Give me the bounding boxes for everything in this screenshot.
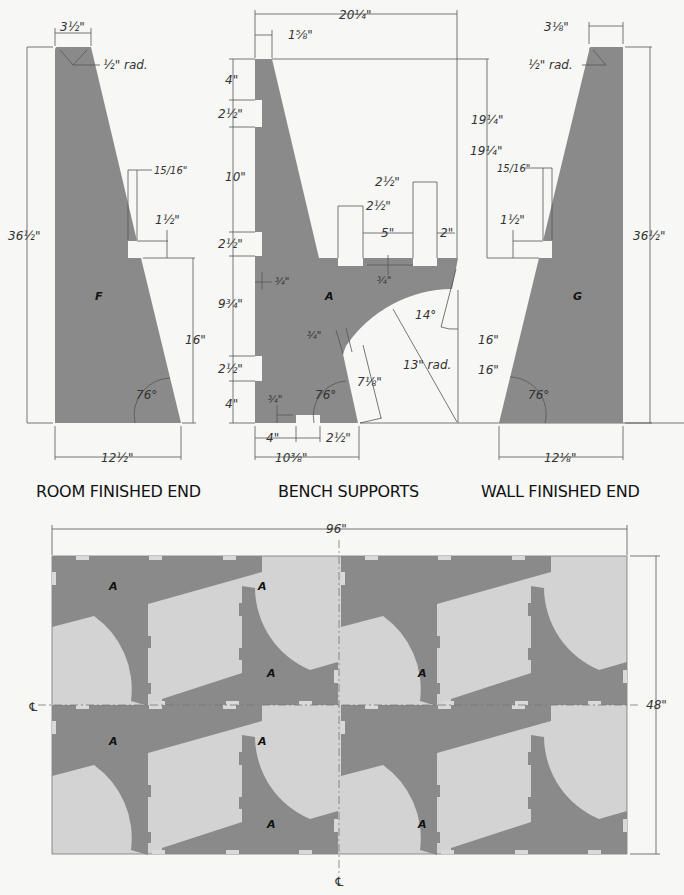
dim-g-notch-elevation: 16"	[478, 333, 499, 347]
layout-label-a: A	[108, 735, 118, 748]
layout-label-a: A	[257, 580, 267, 593]
dim-a-arc-radius: 13" rad.	[403, 358, 451, 372]
dim-a-left-9-3-4: 9¾"	[218, 297, 243, 311]
dim-g-notch-depth: 15/16"	[497, 163, 530, 174]
dim-sheet-height: 48"	[646, 698, 667, 712]
dim-g-height: 36½"	[633, 229, 665, 243]
layout-label-a: A	[417, 818, 427, 831]
dim-g-notch-height: 1½"	[500, 213, 525, 227]
dim-f-radius: ½" rad.	[103, 58, 148, 72]
part-g-shape	[499, 47, 623, 423]
dim-g-angle: 76°	[528, 388, 549, 402]
dim-a-span-2: 2"	[440, 226, 453, 240]
dim-a-left-slot-3: 2½"	[218, 362, 243, 376]
cutting-layout: 96" 48"	[28, 522, 667, 889]
dim-g-radius: ½" rad.	[528, 58, 573, 72]
dim-a-slot-a: 2½"	[366, 199, 391, 213]
part-label-g: G	[573, 290, 582, 303]
title-wall-finished-end: WALL FINISHED END	[481, 482, 639, 501]
layout-label-a: A	[108, 580, 118, 593]
plan-drawing: 3½" ½" rad. 36½" 15/16" 1½" 16" 76° 12½"…	[0, 0, 684, 895]
dim-a-slot-depth-left: ¾"	[275, 276, 289, 287]
dim-f-notch-elevation: 16"	[185, 333, 206, 347]
dim-a-base-slot: 2½"	[326, 431, 351, 445]
dim-a-height-16: 16"	[478, 363, 499, 377]
centerline-symbol-bottom: ℄	[334, 875, 345, 889]
dim-a-edge-depth: ¾"	[307, 330, 321, 341]
room-finished-end-view: 3½" ½" rad. 36½" 15/16" 1½" 16" 76° 12½"…	[8, 20, 206, 465]
title-bench-supports: BENCH SUPPORTS	[278, 482, 419, 501]
dim-a-angle-14: 14°	[415, 308, 436, 322]
layout-label-a: A	[266, 818, 276, 831]
dim-sheet-width: 96"	[326, 522, 347, 536]
dim-f-top-width: 3½"	[60, 20, 85, 34]
dim-a-height-to-seat: 19¼"	[470, 144, 502, 158]
dim-a-edge-length: 7⅛"	[357, 375, 382, 389]
dim-f-angle: 76°	[136, 388, 157, 402]
dim-a-overall-width: 20¼"	[339, 8, 371, 22]
layout-label-a: A	[257, 735, 267, 748]
dim-a-left-10: 10"	[225, 170, 246, 184]
dim-a-left-slot-2: 2½"	[218, 237, 243, 251]
wall-finished-end-view: 3⅛" ½" rad. 36½" 19¼" 15/16" 1½" 16" 76°…	[471, 20, 665, 465]
part-f-shape	[55, 47, 181, 423]
dim-a-slot-b: 2½"	[375, 175, 400, 189]
part-label-a: A	[324, 290, 334, 303]
dim-a-angle-76: 76°	[315, 388, 336, 402]
layout-label-a: A	[266, 667, 276, 680]
dim-f-base-width: 12½"	[101, 451, 133, 465]
dim-a-base-slot-depth: ¾"	[268, 394, 282, 405]
dim-a-base-width: 10⅜"	[275, 451, 307, 465]
title-room-finished-end: ROOM FINISHED END	[36, 482, 201, 501]
dim-f-notch-height: 1½"	[155, 213, 180, 227]
dim-a-left-4-top: 4"	[225, 73, 238, 87]
dim-a-top-width: 1⅝"	[288, 28, 313, 42]
dim-f-notch-depth: 15/16"	[154, 165, 187, 176]
dim-g-base-width: 12⅛"	[544, 451, 576, 465]
layout-label-a: A	[417, 667, 427, 680]
part-label-f: F	[95, 290, 103, 303]
dim-a-span-5: 5"	[381, 226, 394, 240]
dim-a-base-4: 4"	[266, 431, 279, 445]
dim-a-left-4-bottom: 4"	[225, 397, 238, 411]
dim-g-top-width: 3⅛"	[544, 20, 569, 34]
dim-f-height: 36½"	[8, 229, 40, 243]
dim-g-height-19: 19¼"	[471, 113, 503, 127]
dim-a-seat-slot-depth: ¾"	[377, 275, 391, 286]
dim-a-left-slot-1: 2½"	[218, 107, 243, 121]
centerline-symbol-left: ℄	[28, 700, 39, 714]
